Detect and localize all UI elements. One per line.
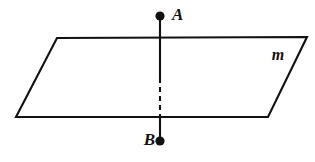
plane-m-parallelogram [16,37,307,117]
point-a-label: A [171,5,183,24]
geometry-figure: A B m [0,0,315,162]
point-b-dot [155,136,164,145]
plane-m-label: m [272,46,284,63]
point-a-dot [155,11,164,20]
figure-canvas: A B m [0,0,315,162]
point-b-label: B [143,130,155,149]
